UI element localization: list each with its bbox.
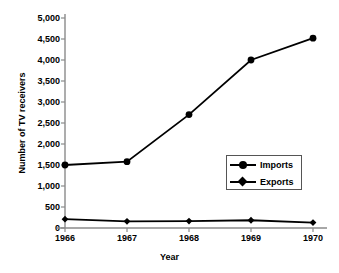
legend-item-imports: Imports bbox=[227, 156, 301, 173]
data-point-marker bbox=[248, 57, 255, 64]
data-point-marker bbox=[186, 111, 193, 118]
legend-label-exports: Exports bbox=[256, 177, 294, 187]
data-point-marker bbox=[248, 217, 255, 224]
chart-legend: Imports Exports bbox=[226, 155, 302, 190]
series-exports bbox=[62, 216, 317, 226]
data-point-marker bbox=[186, 218, 193, 225]
axis-lines bbox=[57, 14, 327, 228]
legend-item-exports: Exports bbox=[227, 173, 301, 190]
data-point-marker bbox=[62, 162, 69, 169]
x-tick-label: 1967 bbox=[107, 233, 147, 243]
data-point-marker bbox=[124, 158, 131, 165]
data-point-marker bbox=[310, 35, 317, 42]
data-point-marker bbox=[124, 218, 131, 225]
data-point-marker bbox=[310, 219, 317, 226]
legend-marker-exports-icon bbox=[230, 176, 256, 188]
x-tick-label: 1969 bbox=[231, 233, 271, 243]
x-tick-label: 1970 bbox=[293, 233, 333, 243]
chart-container: Number of TV receivers 5,0004,5004,0003,… bbox=[0, 0, 339, 273]
x-tick-label: 1966 bbox=[45, 233, 85, 243]
data-point-marker bbox=[62, 216, 69, 223]
x-tick-label: 1968 bbox=[169, 233, 209, 243]
legend-label-imports: Imports bbox=[256, 160, 293, 170]
series-imports bbox=[62, 35, 317, 169]
data-series-layer bbox=[62, 35, 317, 226]
legend-marker-imports-icon bbox=[230, 159, 256, 171]
